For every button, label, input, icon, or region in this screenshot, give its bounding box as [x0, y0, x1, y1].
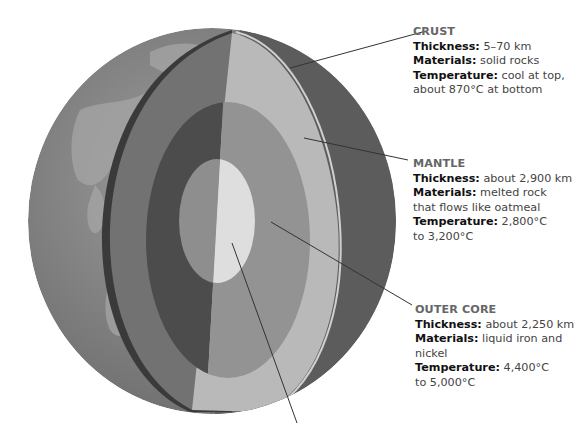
outer-core-temperature-key: Temperature:: [415, 361, 500, 374]
outer-core-temperature-value-2: to 5,000°C: [415, 376, 475, 389]
crust-title: CRUST: [413, 25, 455, 38]
crust-leader: [290, 31, 426, 68]
outer-core-thickness-key: Thickness:: [415, 318, 482, 331]
outer-core-temperature-value-1: 4,400°C: [500, 361, 549, 374]
mantle-temperature-value-1: 2,800°C: [498, 215, 547, 228]
outer-core-materials-value-1: liquid iron and: [479, 332, 563, 345]
mantle-temperature-value-2: to 3,200°C: [413, 230, 473, 243]
crust-label: CRUST Thickness: 5–70 km Materials: soli…: [413, 25, 565, 98]
crust-temperature-value-1: cool at top,: [498, 69, 565, 82]
mantle-label: MANTLE Thickness: about 2,900 km Materia…: [413, 157, 572, 245]
mantle-thickness-value: about 2,900 km: [480, 172, 572, 185]
crust-materials-key: Materials:: [413, 54, 477, 67]
outer-core-materials-key: Materials:: [415, 332, 479, 345]
mantle-materials-value-1: melted rock: [477, 186, 547, 199]
mantle-materials-key: Materials:: [413, 186, 477, 199]
globe: [28, 28, 396, 414]
outer-core-label: OUTER CORE Thickness: about 2,250 km Mat…: [415, 303, 574, 391]
outer-core-thickness-value: about 2,250 km: [482, 318, 574, 331]
mantle-thickness-key: Thickness:: [413, 172, 480, 185]
mantle-materials-value-2: that flows like oatmeal: [413, 201, 540, 214]
crust-temperature-value-2: about 870°C at bottom: [413, 83, 542, 96]
crust-thickness-value: 5–70 km: [480, 40, 531, 53]
mantle-temperature-key: Temperature:: [413, 215, 498, 228]
outer-core-title: OUTER CORE: [415, 303, 496, 316]
outer-core-materials-value-2: nickel: [415, 347, 447, 360]
crust-thickness-key: Thickness:: [413, 40, 480, 53]
crust-materials-value: solid rocks: [477, 54, 540, 67]
mantle-title: MANTLE: [413, 157, 465, 170]
crust-temperature-key: Temperature:: [413, 69, 498, 82]
